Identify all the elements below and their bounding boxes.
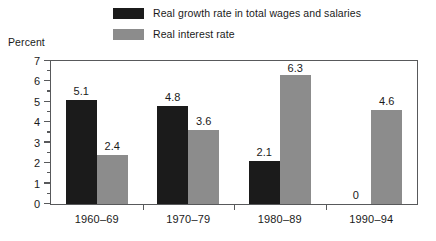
- bar-value-label: 4.6: [379, 95, 394, 107]
- bar-value-label: 6.3: [288, 62, 303, 74]
- y-tick-major: [44, 162, 51, 163]
- bar-value-label: 2.1: [257, 146, 272, 158]
- bar-dark: [249, 161, 280, 204]
- y-tick-minor: [47, 111, 51, 112]
- bars-layer: 5.12.44.83.62.16.304.6: [51, 61, 417, 204]
- y-tick-label: 2: [34, 157, 40, 169]
- bar-dark: [157, 106, 188, 204]
- bar-value-label: 3.6: [196, 115, 211, 127]
- bar-dark: [66, 100, 97, 204]
- y-tick-label: 1: [34, 178, 40, 190]
- legend-swatch-dark-icon: [113, 8, 144, 19]
- bar-gray: [188, 130, 219, 204]
- y-tick-major: [44, 121, 51, 122]
- legend-label-real-interest-rate: Real interest rate: [153, 29, 235, 40]
- y-tick-minor: [47, 172, 51, 173]
- y-tick-minor: [47, 131, 51, 132]
- y-tick-label: 0: [34, 198, 40, 210]
- bar-gray: [280, 75, 311, 204]
- bar-value-label: 5.1: [74, 85, 89, 97]
- y-tick-major: [44, 80, 51, 81]
- plot-area: 5.12.44.83.62.16.304.6 01234567 1960–691…: [50, 60, 418, 205]
- x-tick: [143, 204, 144, 210]
- chart-legend: Real growth rate in total wages and sala…: [113, 4, 361, 46]
- y-tick-label: 5: [34, 96, 40, 108]
- legend-swatch-gray-icon: [113, 29, 144, 40]
- bar-gray: [97, 155, 128, 204]
- legend-item-real-interest-rate: Real interest rate: [113, 25, 361, 43]
- y-tick-label: 3: [34, 137, 40, 149]
- bar-value-label: 2.4: [105, 140, 120, 152]
- x-axis-label: 1960–69: [75, 213, 119, 225]
- x-axis-label: 1970–79: [166, 213, 210, 225]
- x-tick: [326, 204, 327, 210]
- bar-value-label: 0: [353, 189, 359, 201]
- bar-value-label: 4.8: [165, 91, 180, 103]
- x-tick: [234, 204, 235, 210]
- x-axis-label: 1990–94: [349, 213, 393, 225]
- bar-gray: [371, 110, 402, 204]
- bar-chart: Real growth rate in total wages and sala…: [0, 0, 436, 241]
- y-tick-minor: [47, 152, 51, 153]
- legend-label-real-growth-rate: Real growth rate in total wages and sala…: [153, 8, 361, 19]
- y-tick-label: 6: [34, 75, 40, 87]
- y-tick-major: [44, 141, 51, 142]
- y-tick-major: [44, 101, 51, 102]
- y-tick-minor: [47, 193, 51, 194]
- y-tick-label: 4: [34, 116, 40, 128]
- y-tick-major: [44, 182, 51, 183]
- y-axis-title: Percent: [8, 36, 45, 48]
- y-tick-label: 7: [34, 55, 40, 67]
- y-tick-minor: [47, 90, 51, 91]
- y-tick-major: [44, 203, 51, 204]
- x-axis-label: 1980–89: [258, 213, 302, 225]
- y-tick-major: [44, 60, 51, 61]
- y-tick-minor: [47, 70, 51, 71]
- legend-item-real-growth-rate: Real growth rate in total wages and sala…: [113, 4, 361, 22]
